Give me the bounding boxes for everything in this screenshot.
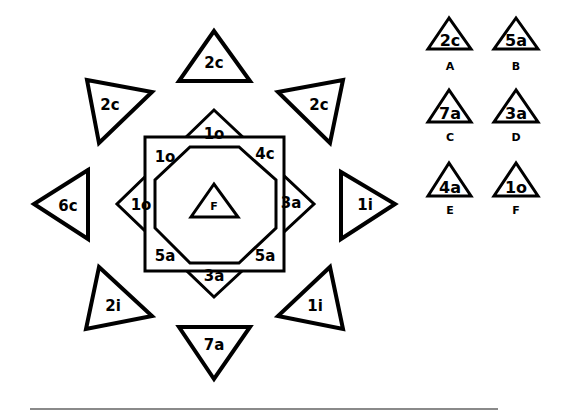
outer-triangle-bottom: 7a	[179, 327, 250, 379]
outer-label-bottom: 7a	[204, 336, 225, 354]
outer-label-upper-left: 2c	[100, 96, 119, 114]
option-e-value: 4a	[439, 178, 461, 197]
outer-label-lower-right: 1i	[307, 297, 323, 315]
star-label-lower-right: 5a	[255, 247, 276, 265]
option-a[interactable]: 2c A	[428, 18, 471, 73]
outer-triangle-left: 6c	[34, 170, 88, 239]
outer-label-lower-left: 2i	[105, 297, 121, 315]
star-label-upper-left: 1o	[155, 148, 176, 166]
star-label-bottom: 3a	[204, 267, 225, 285]
outer-triangle-lower-left: 2i	[86, 267, 152, 329]
outer-triangle-lower-right: 1i	[278, 267, 343, 329]
option-a-letter: A	[446, 60, 455, 73]
option-a-value: 2c	[440, 31, 461, 50]
outer-triangle-right: 1i	[341, 172, 395, 239]
outer-label-left: 6c	[58, 197, 77, 215]
outer-label-right: 1i	[357, 196, 373, 214]
option-b-value: 5a	[505, 31, 527, 50]
center-label: F	[210, 200, 218, 213]
option-b-letter: B	[512, 60, 520, 73]
star-label-lower-left: 5a	[155, 247, 176, 265]
option-c-value: 7a	[439, 104, 461, 123]
option-d-value: 3a	[505, 104, 527, 123]
option-f-value: 1o	[505, 178, 527, 197]
option-c[interactable]: 7a C	[428, 90, 471, 144]
option-c-letter: C	[446, 131, 454, 144]
outer-triangle-upper-right: 2c	[278, 80, 343, 143]
outer-label-upper-right: 2c	[309, 96, 328, 114]
star-label-upper-right: 4c	[255, 145, 274, 163]
option-e[interactable]: 4a E	[428, 163, 471, 217]
star-label-left: 1o	[131, 196, 152, 214]
star-label-right: 3a	[281, 194, 302, 212]
option-d[interactable]: 3a D	[494, 90, 538, 144]
outer-triangle-upper-left: 2c	[87, 80, 152, 143]
puzzle-diagram: 2c 2c 1i 1i 7a 2i 6c 2c 1o 4c 3a 5a 3a	[0, 0, 567, 411]
bottom-rule	[30, 408, 498, 410]
star-label-top: 1o	[204, 125, 225, 143]
option-f[interactable]: 1o F	[494, 163, 538, 217]
option-e-letter: E	[446, 204, 454, 217]
option-f-letter: F	[512, 204, 520, 217]
outer-label-top: 2c	[204, 54, 223, 72]
option-d-letter: D	[511, 131, 520, 144]
outer-triangle-top: 2c	[179, 31, 250, 81]
option-b[interactable]: 5a B	[494, 18, 538, 73]
